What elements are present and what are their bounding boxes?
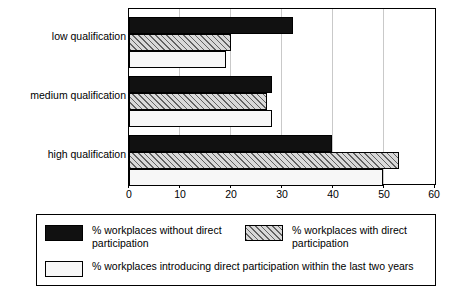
bar-medium-introducing [129, 110, 272, 127]
bar-chart: low qualification medium qualification h… [0, 0, 470, 205]
category-label-medium: medium qualification [8, 89, 126, 101]
chart-legend: % workplaces without direct participatio… [36, 214, 436, 286]
legend-swatch-without [45, 225, 83, 241]
legend-item-with: % workplaces with direct participation [245, 224, 430, 249]
legend-label-without: % workplaces without direct participatio… [92, 224, 230, 249]
plot-area [128, 8, 436, 185]
bar-high-without [129, 135, 332, 152]
legend-item-introducing: % workplaces introducing direct particip… [45, 260, 430, 277]
legend-label-with: % workplaces with direct participation [292, 224, 430, 249]
legend-swatch-with [245, 225, 283, 241]
legend-item-without: % workplaces without direct participatio… [45, 224, 230, 249]
bar-medium-with [129, 93, 267, 110]
bar-high-introducing [129, 169, 383, 186]
xtick-20: 20 [225, 188, 237, 200]
category-label-low: low qualification [8, 30, 126, 42]
bar-medium-without [129, 76, 272, 93]
x-axis: 0 10 20 30 40 50 60 [128, 185, 436, 203]
legend-swatch-introducing [45, 261, 83, 277]
legend-label-introducing: % workplaces introducing direct particip… [92, 260, 414, 273]
xtick-10: 10 [174, 188, 186, 200]
category-axis-labels: low qualification medium qualification h… [8, 8, 126, 193]
bar-low-without [129, 17, 293, 34]
category-label-high: high qualification [8, 148, 126, 160]
bar-low-with [129, 34, 231, 51]
xtick-40: 40 [327, 188, 339, 200]
xtick-60: 60 [428, 188, 440, 200]
xtick-30: 30 [276, 188, 288, 200]
bar-high-with [129, 152, 399, 169]
xtick-50: 50 [378, 188, 390, 200]
bar-low-introducing [129, 51, 226, 68]
xtick-0: 0 [126, 188, 132, 200]
